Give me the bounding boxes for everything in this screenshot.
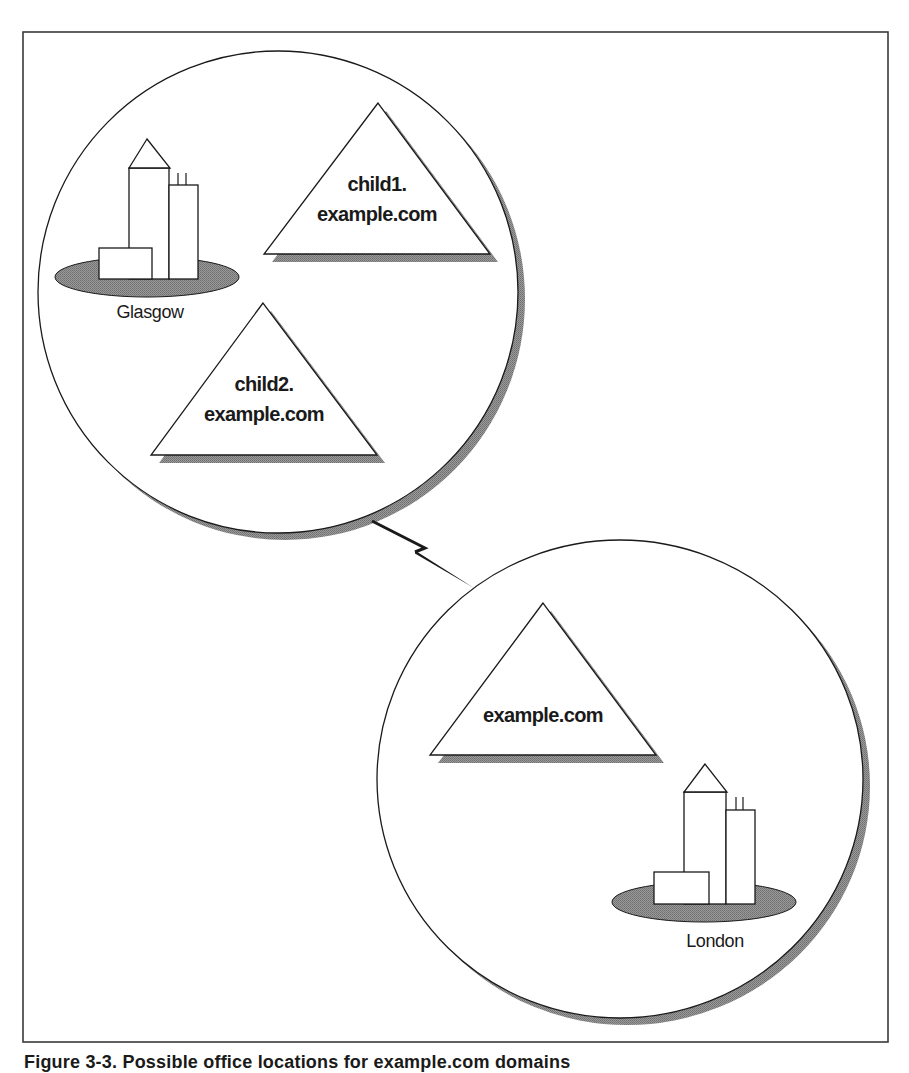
side-tower — [726, 810, 755, 904]
lightning-bolt-tail — [415, 550, 474, 588]
wan-link — [372, 521, 474, 588]
lightning-bolt-icon — [372, 521, 425, 552]
domain-label: child2. — [234, 373, 293, 395]
low-block — [99, 248, 152, 279]
domain-label: example.com — [483, 704, 603, 726]
site-london: London — [377, 540, 870, 1025]
site-circle-london — [377, 540, 863, 1018]
site-label-london: London — [686, 931, 744, 951]
site-label-glasgow: Glasgow — [116, 302, 185, 322]
site-glasgow: Glasgow — [38, 51, 525, 540]
domain-label: example.com — [317, 203, 437, 225]
figure-caption: Figure 3-3. Possible office locations fo… — [24, 1052, 570, 1073]
low-block — [654, 872, 709, 904]
side-tower — [169, 185, 198, 279]
sites-layer: GlasgowLondon — [38, 51, 870, 1025]
domain-label: example.com — [204, 403, 324, 425]
domain-label: child1. — [347, 173, 406, 195]
